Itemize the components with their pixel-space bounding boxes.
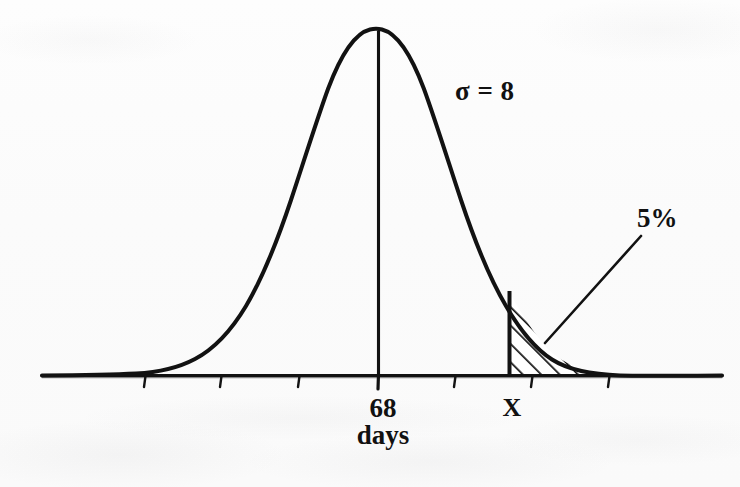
axis-tick bbox=[220, 376, 222, 387]
axis-tick bbox=[608, 376, 610, 387]
axis-tick bbox=[531, 376, 533, 387]
axis-tick bbox=[298, 376, 300, 387]
mean-axis-tick bbox=[378, 374, 379, 389]
tail-percent-label: 5% bbox=[637, 203, 678, 234]
callout-leader-line bbox=[545, 236, 641, 343]
sigma-parameter-label: σ = 8 bbox=[455, 76, 515, 107]
mean-unit-label: days bbox=[349, 420, 417, 451]
bell-curve bbox=[42, 29, 722, 376]
figure-page: σ = 8 5% 68 days X bbox=[0, 0, 740, 487]
axis-tick bbox=[144, 376, 146, 387]
axis-tick bbox=[454, 376, 456, 387]
cutoff-x-label: X bbox=[500, 393, 524, 423]
